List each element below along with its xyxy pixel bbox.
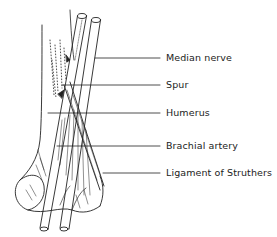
label-brachial-artery: Brachial artery — [166, 141, 238, 151]
median-nerve — [40, 14, 87, 232]
ligament-of-struthers — [64, 82, 104, 190]
leader-lines — [48, 58, 160, 173]
stippling — [50, 40, 66, 98]
humerus-outline — [15, 25, 100, 212]
label-spur: Spur — [166, 80, 188, 90]
condyle — [20, 175, 44, 210]
anatomy-illustration — [0, 0, 277, 237]
label-humerus: Humerus — [166, 108, 210, 118]
label-ligament-of-struthers: Ligament of Struthers — [166, 168, 272, 178]
label-median-nerve: Median nerve — [166, 53, 232, 63]
